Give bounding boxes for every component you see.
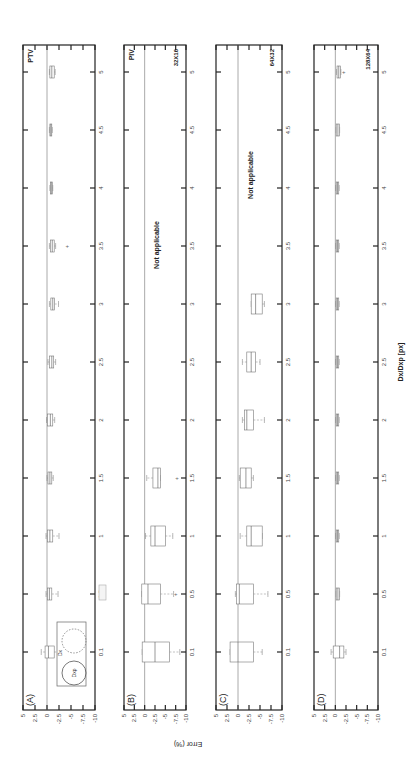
y-tick-label: -5: [68, 713, 74, 719]
y-tick-label: -10: [92, 713, 98, 722]
x-tick-label: 4.5: [98, 125, 104, 134]
box-1.5: [239, 468, 253, 488]
x-tick-label: 3: [381, 302, 387, 306]
iqr-box: [151, 526, 165, 546]
y-tick-label: 2.5: [131, 713, 137, 722]
x-tick-label: 4.5: [381, 125, 387, 134]
x-tick-label: 2.5: [98, 357, 104, 366]
x-tick-label: 1: [189, 534, 195, 538]
x-tick-label: 1.5: [285, 473, 291, 482]
panel-label: (D): [316, 694, 326, 707]
box-4.5: [336, 124, 339, 136]
y-tick-label: -5: [162, 713, 168, 719]
panel-label: (C): [218, 694, 228, 707]
iqr-box: [245, 410, 254, 430]
window-size-label: 32X16: [173, 48, 179, 66]
box-0.5: [46, 588, 58, 600]
x-tick-label: 5: [381, 70, 387, 74]
box-2.5: [242, 352, 260, 372]
x-tick-label: 2: [98, 418, 104, 422]
boxplot-figure: 52.50-2.5-5-7.5-100.10.511.522.533.544.5…: [0, 0, 418, 775]
x-tick-label: 4: [189, 186, 195, 190]
x-tick-label: 0.1: [98, 647, 104, 656]
iqr-box: [247, 526, 262, 546]
y-tick-label: -2.5: [56, 713, 62, 724]
box-5: [49, 66, 55, 78]
y-tick-label: 5: [311, 713, 317, 717]
y-tick-label: -7.5: [173, 713, 179, 724]
panels-group: 52.50-2.5-5-7.5-100.10.511.522.533.544.5…: [20, 45, 387, 724]
not-applicable-note: Not applicable: [153, 221, 161, 269]
box-4.5: [49, 124, 52, 136]
box-2: [47, 414, 55, 426]
y-tick-label: -2.5: [343, 713, 349, 724]
box-1: [46, 530, 59, 542]
panel-b: 52.50-2.5-5-7.5-100.10.511.522.533.544.5…: [121, 45, 195, 724]
x-tick-label: 2.5: [189, 357, 195, 366]
x-tick-label: 3.5: [98, 241, 104, 250]
inset-label-dxp: Dxp: [71, 668, 77, 677]
not-applicable-note: Not applicable: [247, 151, 255, 199]
box-0.1: [142, 642, 180, 662]
x-tick-label: 1.5: [98, 473, 104, 482]
box-4: [336, 182, 339, 194]
y-tick-label: 2.5: [322, 713, 328, 722]
iqr-box: [142, 642, 169, 662]
iqr-box: [230, 642, 253, 662]
panel-c: 52.50-2.5-5-7.5-100.10.511.522.533.544.5…: [213, 45, 291, 724]
x-tick-label: 4: [285, 186, 291, 190]
panel-label: (A): [25, 694, 35, 706]
x-tick-label: 5: [189, 70, 195, 74]
x-tick-label: 1: [285, 534, 291, 538]
x-tick-label: 0.1: [381, 647, 387, 656]
x-tick-label: 3.5: [285, 241, 291, 250]
method-label: PTV: [27, 49, 34, 63]
x-tick-label: 0.5: [189, 589, 195, 598]
y-tick-label: -7.5: [268, 713, 274, 724]
iqr-box: [45, 646, 54, 658]
panel-d: 52.50-2.5-5-7.5-100.10.511.522.533.544.5…: [311, 45, 387, 724]
x-tick-label: 2: [381, 418, 387, 422]
box-0.5: +: [142, 584, 178, 604]
box-1: [336, 530, 339, 542]
box-1: [145, 526, 172, 546]
outlier-marker: +: [175, 475, 179, 481]
y-tick-label: 0: [44, 713, 50, 717]
box-3: [251, 294, 264, 314]
global-labels: Dx/Dxp [px] Error (%): [174, 343, 405, 748]
box-2.5: [48, 356, 56, 368]
x-tick-label: 3: [285, 302, 291, 306]
iqr-box: [251, 294, 262, 314]
outlier-marker: +: [65, 243, 69, 249]
x-tick-label: 1: [381, 534, 387, 538]
x-tick-label: 5: [285, 70, 291, 74]
y-tick-label: -10: [183, 713, 189, 722]
box-5: +: [337, 66, 346, 78]
y-tick-label: -10: [279, 713, 285, 722]
iqr-box: [333, 646, 344, 658]
y-tick-label: 0: [332, 713, 338, 717]
y-tick-label: -7.5: [364, 713, 370, 724]
x-tick-label: 2: [285, 418, 291, 422]
box-2.5: [336, 356, 339, 368]
x-tick-label: 3.5: [189, 241, 195, 250]
y-tick-label: 2.5: [32, 713, 38, 722]
y-tick-label: -7.5: [80, 713, 86, 724]
x-tick-label: 2.5: [381, 357, 387, 366]
window-size-label: 64X32: [269, 48, 275, 66]
x-tick-label: 5: [98, 70, 104, 74]
y-tick-label: -10: [375, 713, 381, 722]
x-tick-label: 0.5: [381, 589, 387, 598]
y-tick-label: -2.5: [246, 713, 252, 724]
method-label: PIV: [128, 49, 135, 61]
box-3.5: +: [49, 240, 69, 252]
outlier-marker: +: [174, 591, 178, 597]
box-1.5: [336, 472, 339, 484]
x-tick-label: 1.5: [189, 473, 195, 482]
panel-frame: [124, 45, 186, 710]
y-tick-label: 2.5: [224, 713, 230, 722]
window-size-label: 128X64: [365, 48, 371, 69]
box-3: [49, 298, 58, 310]
panel-frame: [314, 45, 378, 710]
panel-label: (B): [126, 694, 136, 706]
